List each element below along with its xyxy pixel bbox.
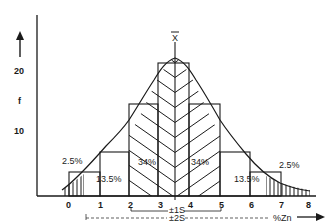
left-tail-hatch xyxy=(65,170,84,196)
pct-left-tail: 2.5% xyxy=(62,156,83,166)
y-arrow-icon xyxy=(16,31,24,57)
y-tick-10: 10 xyxy=(14,126,24,136)
svg-text:2: 2 xyxy=(128,200,133,210)
x-axis-label: %Zn xyxy=(273,213,292,222)
svg-text:8: 8 xyxy=(306,200,311,210)
right-tail-hatch xyxy=(266,170,310,196)
pct-right-mid: 13.5% xyxy=(234,174,260,184)
pct-right-center: 34% xyxy=(191,157,209,167)
x-tick-labels: 0 1 2 3 4 5 6 7 8 xyxy=(66,200,311,210)
svg-text:5: 5 xyxy=(219,200,224,210)
y-tick-20: 20 xyxy=(14,66,24,76)
normal-distribution-diagram: 20 f 10 xyxy=(0,0,331,222)
svg-text:0: 0 xyxy=(66,200,71,210)
pct-left-mid: 13.5% xyxy=(96,174,122,184)
pct-left-center: 34% xyxy=(138,157,156,167)
pct-right-tail: 2.5% xyxy=(279,160,300,170)
svg-text:1: 1 xyxy=(98,200,103,210)
mean-label: X xyxy=(172,33,178,43)
two-sigma-label: ±2S xyxy=(169,213,185,222)
y-axis-label: f xyxy=(18,96,22,106)
svg-text:4: 4 xyxy=(188,200,193,210)
x-arrow-icon xyxy=(297,213,325,221)
bar-4-5 xyxy=(189,104,220,196)
svg-text:7: 7 xyxy=(279,200,284,210)
svg-text:3: 3 xyxy=(158,200,163,210)
normal-curve xyxy=(62,58,310,191)
svg-text:6: 6 xyxy=(249,200,254,210)
